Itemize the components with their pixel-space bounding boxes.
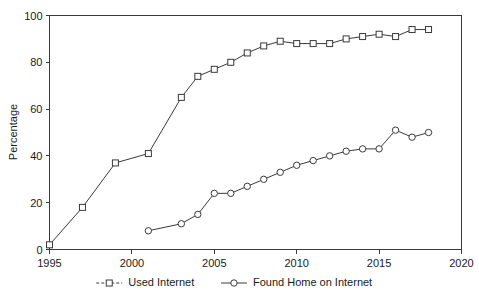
data-point-circle-marker xyxy=(145,228,151,234)
data-point-square-marker xyxy=(112,160,118,166)
y-axis-ticks: 020406080100 xyxy=(24,10,49,256)
data-point-square-marker xyxy=(228,59,234,65)
y-tick-label: 20 xyxy=(30,197,42,209)
line-chart: 020406080100 199520002005201020152020 Pe… xyxy=(0,0,479,302)
data-point-square-marker xyxy=(343,36,349,42)
data-point-square-marker xyxy=(310,41,316,47)
legend-label: Found Home on Internet xyxy=(253,276,372,288)
series-line xyxy=(148,130,428,231)
data-point-circle-marker xyxy=(178,221,184,227)
data-point-square-marker xyxy=(409,27,415,33)
data-point-circle-marker xyxy=(310,157,316,163)
data-point-circle-marker xyxy=(195,211,201,217)
data-point-square-marker xyxy=(195,73,201,79)
y-axis-title: Percentage xyxy=(7,104,19,160)
data-point-square-marker xyxy=(360,34,366,40)
data-point-square-marker xyxy=(106,280,112,286)
data-point-circle-marker xyxy=(211,190,217,196)
data-point-square-marker xyxy=(393,34,399,40)
chart-legend: Used InternetFound Home on Internet xyxy=(96,276,372,288)
data-point-square-marker xyxy=(261,43,267,49)
chart-container: 020406080100 199520002005201020152020 Pe… xyxy=(0,0,479,302)
data-point-square-marker xyxy=(244,50,250,56)
legend-label: Used Internet xyxy=(128,276,194,288)
y-tick-label: 80 xyxy=(30,56,42,68)
data-point-square-marker xyxy=(327,41,333,47)
series-1 xyxy=(47,27,432,248)
y-tick-label: 40 xyxy=(30,150,42,162)
data-point-circle-marker xyxy=(343,148,349,154)
data-point-circle-marker xyxy=(277,169,283,175)
data-point-circle-marker xyxy=(261,176,267,182)
x-tick-label: 2000 xyxy=(120,257,144,269)
x-tick-label: 2015 xyxy=(367,257,391,269)
x-axis-ticks: 199520002005201020152020 xyxy=(37,250,473,269)
data-point-circle-marker xyxy=(376,146,382,152)
data-point-circle-marker xyxy=(228,190,234,196)
data-point-square-marker xyxy=(79,204,85,210)
y-tick-label: 100 xyxy=(24,10,42,22)
data-point-square-marker xyxy=(376,31,382,37)
data-point-square-marker xyxy=(294,41,300,47)
series-2 xyxy=(145,127,432,234)
data-point-square-marker xyxy=(178,94,184,100)
legend-item-2[interactable]: Found Home on Internet xyxy=(221,276,372,288)
data-point-circle-marker xyxy=(409,134,415,140)
data-point-square-marker xyxy=(145,151,151,157)
legend-item-1[interactable]: Used Internet xyxy=(96,276,194,288)
x-tick-label: 2010 xyxy=(284,257,308,269)
plot-frame xyxy=(50,16,462,250)
data-point-circle-marker xyxy=(244,183,250,189)
data-point-square-marker xyxy=(47,242,53,248)
series-layer xyxy=(47,27,432,248)
data-point-circle-marker xyxy=(425,129,431,135)
data-point-circle-marker xyxy=(359,146,365,152)
x-tick-label: 2020 xyxy=(449,257,473,269)
data-point-square-marker xyxy=(277,38,283,44)
series-line xyxy=(50,30,429,245)
data-point-circle-marker xyxy=(392,127,398,133)
data-point-circle-marker xyxy=(294,162,300,168)
y-tick-label: 0 xyxy=(36,244,42,256)
x-tick-label: 1995 xyxy=(37,257,61,269)
data-point-square-marker xyxy=(211,66,217,72)
data-point-circle-marker xyxy=(326,153,332,159)
data-point-square-marker xyxy=(426,27,432,33)
data-point-circle-marker xyxy=(231,280,237,286)
y-tick-label: 60 xyxy=(30,103,42,115)
x-tick-label: 2005 xyxy=(202,257,226,269)
